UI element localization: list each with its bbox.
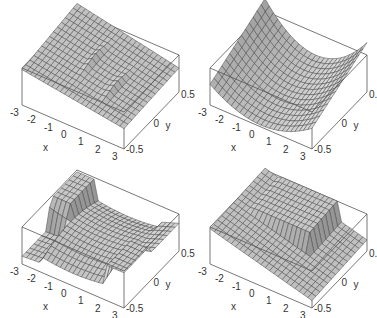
x-axis-label: x <box>231 301 236 312</box>
surface-plot-svg: -3-2-10123-0.500.5xy <box>0 0 188 159</box>
y-axis-label: y <box>354 120 359 131</box>
x-tick-label: -3 <box>10 107 19 118</box>
surface-mesh <box>22 3 179 128</box>
x-tick-label: 1 <box>266 136 272 147</box>
y-axis-label: y <box>354 279 359 290</box>
y-tick-label: -0.5 <box>314 144 332 155</box>
x-tick-label: 0 <box>249 129 255 140</box>
x-tick-label: -1 <box>44 122 53 133</box>
x-axis-label: x <box>43 142 48 153</box>
y-tick-label: -0.5 <box>126 144 144 155</box>
x-tick-label: -2 <box>215 273 224 284</box>
x-tick-label: -1 <box>232 281 241 292</box>
y-tick-label: 0 <box>154 118 160 129</box>
y-tick-label: -0.5 <box>126 303 144 314</box>
surface-plot-svg: -3-2-10123-0.500.5xy <box>188 0 376 159</box>
x-axis-label: x <box>231 142 236 153</box>
x-tick-label: 3 <box>112 310 118 318</box>
x-tick-label: 2 <box>95 144 101 155</box>
surface-plot-svg: -3-2-10123-0.500.5xy <box>188 159 376 318</box>
x-tick-label: -3 <box>10 266 19 277</box>
x-tick-label: 0 <box>249 288 255 299</box>
y-tick-label: 0.5 <box>369 89 377 100</box>
x-tick-label: -3 <box>198 266 207 277</box>
x-tick-label: -1 <box>232 122 241 133</box>
y-tick-label: -0.5 <box>314 303 332 314</box>
surface-plot-bottom-left: -3-2-10123-0.500.5xy <box>0 159 188 318</box>
x-tick-label: -3 <box>198 107 207 118</box>
y-tick-label: 0 <box>342 277 348 288</box>
x-tick-label: 3 <box>300 310 306 318</box>
x-tick-label: -1 <box>44 281 53 292</box>
y-tick-label: 0 <box>342 118 348 129</box>
x-tick-label: 2 <box>95 303 101 314</box>
x-tick-label: -2 <box>27 114 36 125</box>
x-tick-label: 0 <box>61 129 67 140</box>
surface-mesh <box>210 0 367 132</box>
surface-plot-svg: -3-2-10123-0.500.5xy <box>0 159 188 318</box>
x-tick-label: 1 <box>78 295 84 306</box>
y-tick-label: 0.5 <box>369 248 377 259</box>
x-tick-label: -2 <box>27 273 36 284</box>
x-tick-label: 0 <box>61 288 67 299</box>
surface-plot-top-left: -3-2-10123-0.500.5xy <box>0 0 188 159</box>
y-axis-label: y <box>166 279 171 290</box>
surface-plot-top-right: -3-2-10123-0.500.5xy <box>188 0 376 159</box>
x-tick-label: -2 <box>215 114 224 125</box>
x-tick-label: 2 <box>283 144 289 155</box>
y-axis-label: y <box>166 120 171 131</box>
x-tick-label: 1 <box>78 136 84 147</box>
surface-plot-bottom-right: -3-2-10123-0.500.5xy <box>188 159 376 318</box>
x-tick-label: 2 <box>283 303 289 314</box>
y-tick-label: 0 <box>154 277 160 288</box>
surface-mesh <box>22 172 179 284</box>
x-tick-label: 1 <box>266 295 272 306</box>
x-axis-label: x <box>43 301 48 312</box>
